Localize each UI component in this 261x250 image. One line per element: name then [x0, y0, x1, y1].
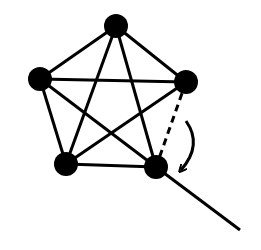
- graph-diagram: [0, 0, 261, 250]
- edge-left-bottom-right: [40, 79, 156, 167]
- diagram-svg: [0, 0, 261, 250]
- graph-nodes: [28, 14, 198, 179]
- node-bottom-left: [54, 152, 78, 176]
- edge-right-bottom-right-dashed: [156, 82, 186, 167]
- edge-top-bottom-left: [66, 26, 116, 164]
- edge-top-left: [40, 26, 116, 79]
- edge-top-bottom-right: [116, 26, 156, 167]
- graph-edges: [40, 26, 186, 167]
- edge-top-right: [116, 26, 186, 82]
- node-right: [174, 70, 198, 94]
- edge-left-right: [40, 79, 186, 82]
- node-left: [28, 67, 52, 91]
- node-bottom-right: [144, 155, 168, 179]
- edge-right-bottom-left: [66, 82, 186, 164]
- graph-extras: [156, 121, 240, 230]
- edge-bottom-left-bottom-right: [66, 164, 156, 167]
- rotation-arrow-icon: [181, 121, 193, 170]
- edge-left-bottom-left: [40, 79, 66, 164]
- external-line: [156, 167, 240, 230]
- node-top: [104, 14, 128, 38]
